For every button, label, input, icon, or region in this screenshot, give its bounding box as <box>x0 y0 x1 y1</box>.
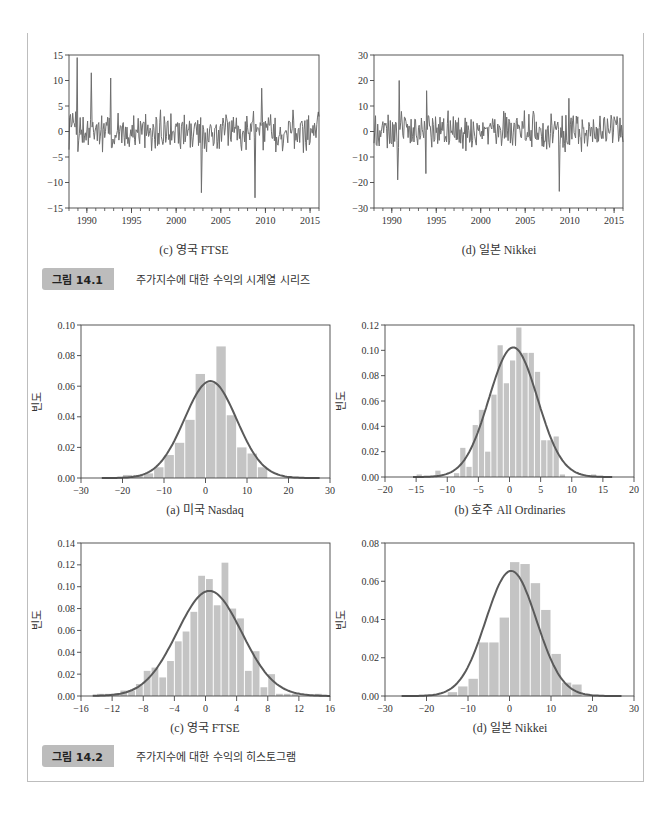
histogram-bar <box>458 686 467 696</box>
histogram-bar <box>520 564 529 696</box>
y-tick-label: 0.12 <box>362 320 380 331</box>
y-axis-label: 빈도 <box>335 391 348 411</box>
y-tick-label: 0.08 <box>362 538 380 549</box>
x-tick-label: 2000 <box>166 215 186 226</box>
x-tick-label: −20 <box>419 703 435 714</box>
histogram-bar <box>154 467 163 478</box>
histogram-bar <box>522 353 527 477</box>
histogram-bar <box>547 440 552 477</box>
x-tick-label: 20 <box>629 484 639 495</box>
x-tick-label: 1990 <box>382 215 402 226</box>
x-tick-label: 2010 <box>255 215 275 226</box>
y-tick-label: 0.02 <box>58 669 76 680</box>
x-tick-label: −30 <box>377 703 393 714</box>
x-tick-label: 20 <box>588 703 598 714</box>
y-tick-label: 0.04 <box>58 411 76 422</box>
x-tick-label: 30 <box>325 485 335 496</box>
x-tick-label: −10 <box>156 485 172 496</box>
subcaption-hist-nasdaq: (a) 미국 Nasdaq <box>80 500 330 518</box>
y-tick-label: 0.00 <box>58 691 76 702</box>
histogram-bar <box>535 372 540 477</box>
x-tick-label: −15 <box>408 484 424 495</box>
x-tick-label: 20 <box>284 485 294 496</box>
histogram-bar <box>504 383 509 477</box>
y-axis-label: 빈도 <box>335 610 348 630</box>
chart-ts_nikkei: −30−20−100102030199019952000200520102015 <box>352 50 624 227</box>
y-tick-label: −20 <box>352 177 368 188</box>
y-tick-label: 30 <box>358 50 368 61</box>
y-tick-label: 0.02 <box>362 446 380 457</box>
y-tick-label: 0.08 <box>58 603 76 614</box>
chart-hist_allords: 0.000.020.040.060.080.100.12−20−15−10−50… <box>335 320 639 496</box>
y-tick-label: 0.06 <box>362 576 380 587</box>
figure-label-badge: 그림 14.2 <box>42 745 114 767</box>
x-tick-label: 2015 <box>300 215 320 226</box>
subcaption-ts-nikkei: (d) 일본 Nikkei <box>374 240 624 258</box>
histogram-bar <box>260 687 267 696</box>
x-tick-label: 16 <box>325 703 335 714</box>
y-tick-label: 0.04 <box>362 614 380 625</box>
histogram-bar <box>159 677 166 696</box>
x-tick-label: 10 <box>546 703 556 714</box>
y-tick-label: 0.00 <box>58 473 76 484</box>
y-tick-label: 0 <box>363 126 368 137</box>
y-tick-label: 15 <box>53 50 63 61</box>
returns-line <box>69 58 319 198</box>
subcaption-hist-ftse: (c) 영국 FTSE <box>80 718 330 736</box>
histogram-bar <box>448 692 457 696</box>
y-tick-label: 0.10 <box>362 345 380 356</box>
x-tick-label: 10 <box>567 484 577 495</box>
y-tick-label: 5 <box>58 101 63 112</box>
y-tick-label: 0.02 <box>362 652 380 663</box>
y-tick-label: 0.02 <box>58 442 76 453</box>
histogram-bar <box>469 679 478 696</box>
histogram-bar <box>229 609 236 696</box>
y-tick-label: 20 <box>358 75 368 86</box>
y-tick-label: 0.10 <box>58 320 76 331</box>
x-tick-label: 15 <box>598 484 608 495</box>
histogram-bar <box>510 360 515 477</box>
histogram-bar <box>206 579 213 696</box>
x-tick-label: −10 <box>460 703 476 714</box>
histogram-bar <box>541 440 546 477</box>
x-tick-label: 1990 <box>77 215 97 226</box>
y-tick-label: 0.08 <box>362 370 380 381</box>
figure-caption-text: 주가지수에 대한 수익의 히스토그램 <box>136 748 297 764</box>
histogram-bar <box>175 641 182 696</box>
y-tick-label: 0.00 <box>362 472 380 483</box>
histogram-bar <box>554 436 559 477</box>
y-tick-label: −10 <box>352 152 368 163</box>
histogram-bar <box>479 642 488 696</box>
histogram-bar <box>491 395 496 477</box>
x-tick-label: 12 <box>294 703 304 714</box>
x-tick-label: 4 <box>234 703 239 714</box>
subcaption-ts-ftse: (c) 영국 FTSE <box>69 240 319 258</box>
x-tick-label: 5 <box>538 484 543 495</box>
histogram-bar <box>214 605 221 696</box>
histogram-bar <box>245 671 252 696</box>
y-tick-label: −30 <box>352 203 368 214</box>
x-tick-label: 2000 <box>471 215 491 226</box>
x-tick-label: 0 <box>507 703 512 714</box>
x-tick-label: −16 <box>73 703 89 714</box>
x-tick-label: −30 <box>73 485 89 496</box>
histogram-bar <box>531 583 540 696</box>
charts-canvas: −15−10−5051015199019952000200520102015−3… <box>0 0 670 821</box>
x-tick-label: 30 <box>629 703 639 714</box>
histogram-bar <box>489 642 498 696</box>
y-tick-label: 0.04 <box>58 647 76 658</box>
y-tick-label: 0.12 <box>58 559 76 570</box>
histogram-bar <box>175 443 184 478</box>
y-tick-label: 10 <box>53 75 63 86</box>
histogram-bar <box>500 618 509 696</box>
y-tick-label: 0.00 <box>362 691 380 702</box>
y-tick-label: 0.04 <box>362 421 380 432</box>
x-tick-label: 0 <box>507 484 512 495</box>
y-tick-label: −5 <box>52 152 63 163</box>
x-tick-label: −8 <box>138 703 149 714</box>
x-tick-label: −20 <box>115 485 131 496</box>
y-tick-label: −15 <box>47 203 63 214</box>
x-tick-label: 10 <box>242 485 252 496</box>
y-tick-label: 0.06 <box>362 396 380 407</box>
x-tick-label: 8 <box>265 703 270 714</box>
